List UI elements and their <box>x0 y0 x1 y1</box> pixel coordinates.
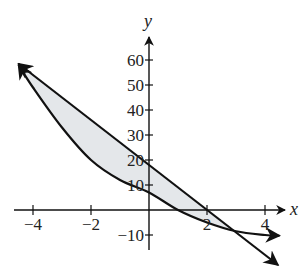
axes <box>14 37 285 250</box>
y-tick-label: −10 <box>117 226 144 245</box>
x-axis-label: x <box>289 199 298 219</box>
y-tick-label: 10 <box>127 176 144 195</box>
y-tick-label: 50 <box>127 76 144 95</box>
x-tick-label: 2 <box>203 215 212 234</box>
x-tick-label: −2 <box>82 215 100 234</box>
x-tick-label: −4 <box>24 215 43 234</box>
y-tick-label: 40 <box>127 101 144 120</box>
y-tick-label: 30 <box>127 126 144 145</box>
chart-canvas: −4−224−10102030405060xy <box>0 0 303 271</box>
y-tick-label: 20 <box>127 151 144 170</box>
x-tick-label: 4 <box>261 215 270 234</box>
y-tick-label: 60 <box>127 51 144 70</box>
y-axis-label: y <box>142 11 152 31</box>
